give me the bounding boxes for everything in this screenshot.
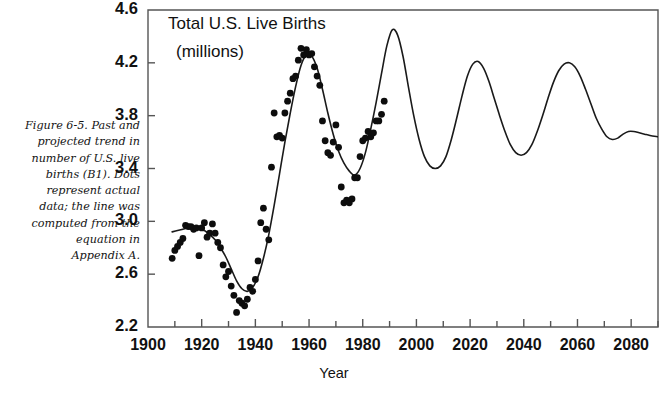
- x-axis-tick-label: 1960: [281, 336, 337, 354]
- x-axis-title: Year: [0, 365, 668, 381]
- data-point: [370, 129, 377, 136]
- data-point: [209, 221, 216, 228]
- data-point: [292, 73, 299, 80]
- x-axis-tick-label: 1940: [227, 336, 283, 354]
- data-point: [260, 205, 267, 212]
- data-point: [225, 268, 232, 275]
- series-group: [169, 29, 658, 316]
- x-axis-tick-label: 2040: [496, 336, 552, 354]
- data-point: [265, 236, 272, 243]
- data-point: [257, 219, 264, 226]
- data-point: [295, 57, 302, 64]
- data-point: [311, 63, 318, 70]
- data-point: [319, 118, 326, 125]
- data-point: [338, 184, 345, 191]
- data-point: [252, 276, 259, 283]
- x-axis-tick-label: 2000: [388, 336, 444, 354]
- x-axis-tick-label: 1980: [335, 336, 391, 354]
- figure-root: Figure 6-5. Past and projected trend in …: [0, 0, 668, 398]
- data-point: [255, 258, 262, 265]
- x-axis-tick-label: 1920: [174, 336, 230, 354]
- data-point: [196, 252, 203, 259]
- data-point: [327, 152, 334, 159]
- data-point: [244, 296, 251, 303]
- data-point: [249, 288, 256, 295]
- data-point: [233, 309, 240, 316]
- data-point: [378, 111, 385, 118]
- y-axis-tick-label: 4.6: [96, 0, 138, 18]
- data-point: [220, 262, 227, 269]
- data-point: [330, 139, 337, 146]
- x-axis-tick-label: 2020: [442, 336, 498, 354]
- data-point: [357, 153, 364, 160]
- data-point: [268, 164, 275, 171]
- data-point: [381, 98, 388, 105]
- data-point: [284, 98, 291, 105]
- data-point: [354, 174, 361, 181]
- x-axis-tick-label: 2060: [549, 336, 605, 354]
- y-axis-tick-label: 3.4: [96, 158, 138, 177]
- data-point: [316, 82, 323, 89]
- data-point: [241, 302, 248, 309]
- data-point: [335, 144, 342, 151]
- y-axis-tick-label: 2.6: [96, 263, 138, 282]
- data-point: [322, 137, 329, 144]
- data-point: [230, 292, 237, 299]
- data-point: [217, 244, 224, 251]
- data-point: [263, 226, 270, 233]
- y-axis-tick-label: 3.8: [96, 105, 138, 124]
- data-point: [308, 50, 315, 57]
- x-axis-tick-label: 2080: [603, 336, 659, 354]
- data-point: [375, 118, 382, 125]
- data-point: [281, 110, 288, 117]
- y-axis-tick-label: 4.2: [96, 52, 138, 71]
- trend-line: [172, 29, 658, 291]
- data-point: [169, 255, 176, 262]
- data-point: [349, 195, 356, 202]
- data-point: [271, 110, 278, 117]
- y-axis-tick-label: 3.0: [96, 210, 138, 229]
- data-point: [228, 283, 235, 290]
- data-point: [212, 230, 219, 237]
- data-point: [332, 122, 339, 129]
- data-point: [179, 235, 186, 242]
- data-point: [279, 135, 286, 142]
- data-point: [314, 73, 321, 80]
- chart-area: Total U.S. Live Births (millions) 2.22.6…: [0, 0, 668, 398]
- x-axis-tick-label: 1900: [120, 336, 176, 354]
- data-point: [201, 219, 208, 226]
- data-point: [287, 90, 294, 97]
- y-axis-tick-label: 2.2: [96, 316, 138, 335]
